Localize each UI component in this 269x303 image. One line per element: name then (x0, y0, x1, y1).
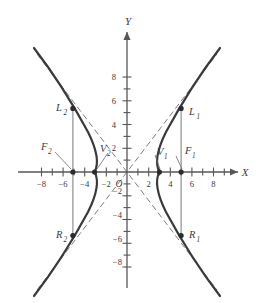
point-f1 (179, 169, 184, 174)
label-r1: R 1 (188, 229, 200, 244)
point-v2 (92, 169, 97, 174)
x-axis-label: X (241, 166, 250, 178)
label-v1-sub: 1 (164, 153, 168, 161)
point-labels: L 1 L 2 R 1 R 2 F 1 F 2 (40, 102, 200, 244)
label-v2-sub: 2 (107, 150, 111, 158)
label-l1-base: L (188, 106, 195, 117)
x-tick-label: −4 (80, 179, 90, 189)
x-tick-label: 2 (147, 179, 151, 189)
label-f1-sub: 1 (192, 152, 196, 160)
point-r1 (179, 233, 184, 238)
y-tick-label: −4 (113, 210, 123, 220)
x-tick-label: 8 (211, 179, 215, 189)
y-axis-label: Y (125, 15, 133, 27)
label-v2: V 2 (100, 143, 111, 158)
label-f1: F 1 (184, 145, 196, 160)
x-tick-label: 4 (168, 179, 173, 189)
x-axis-arrow (230, 168, 238, 175)
y-tick-label: 6 (112, 96, 117, 106)
label-r2: R 2 (55, 229, 68, 244)
point-l2 (70, 106, 75, 111)
y-tick-label: −6 (113, 234, 123, 244)
label-l1-sub: 1 (197, 113, 201, 121)
plot-canvas: X Y O −8 −6 −4 −2 2 4 6 8 8 6 4 2 −2 −4 … (0, 0, 269, 303)
label-r2-base: R (55, 229, 63, 240)
label-r1-sub: 1 (197, 236, 201, 244)
label-f2: F 2 (40, 141, 52, 156)
label-v1: V 1 (157, 146, 168, 161)
y-tick-label: 8 (112, 72, 116, 82)
y-tick-label: −2 (113, 186, 122, 196)
point-f2 (70, 169, 75, 174)
leader-f2 (55, 152, 71, 169)
y-axis-arrow (123, 32, 130, 40)
x-tick-label: −8 (37, 179, 46, 189)
x-tick-label: −2 (102, 179, 111, 189)
point-v1 (157, 169, 162, 174)
hyperbola-figure: X Y O −8 −6 −4 −2 2 4 6 8 8 6 4 2 −2 −4 … (0, 0, 269, 303)
y-tick-label: 2 (112, 143, 116, 153)
y-tick-label: 4 (112, 120, 117, 130)
label-l1: L 1 (188, 106, 200, 121)
x-tick-label: −6 (59, 179, 69, 189)
label-f2-base: F (40, 141, 48, 152)
label-f1-base: F (184, 145, 192, 156)
y-tick-label: −8 (113, 257, 122, 267)
label-l2: L 2 (55, 102, 68, 117)
x-tick-label: 6 (190, 179, 195, 189)
label-r1-base: R (188, 229, 196, 240)
label-l2-base: L (55, 102, 62, 113)
label-l2-sub: 2 (64, 109, 68, 117)
point-r2 (70, 233, 75, 238)
point-l1 (179, 106, 184, 111)
label-f2-sub: 2 (48, 148, 52, 156)
label-r2-sub: 2 (64, 236, 68, 244)
